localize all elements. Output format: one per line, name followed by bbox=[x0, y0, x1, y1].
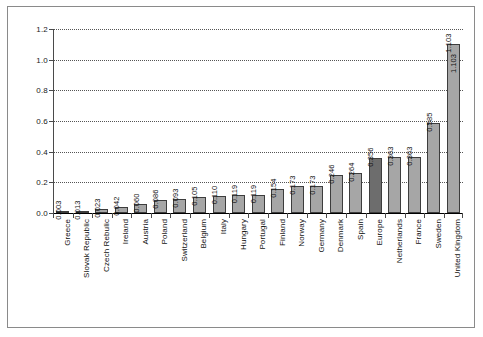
x-axis-tick bbox=[444, 213, 464, 218]
bar[interactable]: 0.246 bbox=[330, 175, 343, 213]
bar-slot: 0.105 bbox=[190, 29, 210, 213]
bar-value-label: 0.154 bbox=[269, 179, 278, 198]
bar-value-label: 0.363 bbox=[405, 147, 414, 166]
x-axis-category-label: Switzerland bbox=[180, 219, 189, 261]
x-axis-label-cell: Germany bbox=[307, 219, 327, 319]
bar[interactable]: 1.1031.103 bbox=[447, 44, 460, 213]
bar-slot: 0.173 bbox=[287, 29, 307, 213]
x-axis-label-cell: Italy bbox=[209, 219, 229, 319]
bar-value-label: 0.246 bbox=[327, 165, 336, 184]
x-axis-label-cell: Greece bbox=[53, 219, 73, 319]
x-axis-category-label: Poland bbox=[160, 219, 169, 245]
bar[interactable]: 0.356 bbox=[369, 158, 382, 213]
bar[interactable]: 0.086 bbox=[154, 200, 167, 213]
bar-value-label: 0.264 bbox=[347, 162, 356, 181]
x-axis-label-cell: Netherlands bbox=[385, 219, 405, 319]
bar-slot: 0.585 bbox=[424, 29, 444, 213]
x-axis-label-cell: Belgium bbox=[190, 219, 210, 319]
bar-value-label: 0.105 bbox=[190, 186, 199, 205]
bar-slot: 1.1031.103 bbox=[444, 29, 464, 213]
bar-series: 0.0030.0130.0230.0420.0600.0860.0930.105… bbox=[53, 29, 463, 213]
y-axis-label: 1.0 bbox=[36, 55, 48, 64]
bar[interactable]: 0.110 bbox=[213, 196, 226, 213]
bar-slot: 0.173 bbox=[307, 29, 327, 213]
x-axis-tick bbox=[92, 213, 112, 218]
x-axis-tick bbox=[346, 213, 366, 218]
x-axis-category-label: Norway bbox=[297, 219, 306, 247]
bar[interactable]: 0.173 bbox=[291, 186, 304, 213]
x-axis-label-cell: Finland bbox=[268, 219, 288, 319]
x-axis-category-label: Denmark bbox=[336, 219, 345, 252]
x-axis-tick bbox=[190, 213, 210, 218]
x-axis-tick bbox=[287, 213, 307, 218]
bar-slot: 0.119 bbox=[229, 29, 249, 213]
bar-slot: 0.110 bbox=[209, 29, 229, 213]
bar[interactable]: 0.264 bbox=[349, 173, 362, 213]
x-axis-label-cell: Sweden bbox=[424, 219, 444, 319]
y-axis-labels: 1.2 1.0 0.8 0.6 0.4 0.2 0.0 bbox=[20, 29, 48, 213]
bar-slot: 0.093 bbox=[170, 29, 190, 213]
x-axis-tick bbox=[307, 213, 327, 218]
x-axis-label-cell: Austria bbox=[131, 219, 151, 319]
bar[interactable]: 0.119 bbox=[252, 195, 265, 213]
bar[interactable]: 0.154 bbox=[271, 189, 284, 213]
bar-value-label: 0.585 bbox=[425, 113, 434, 132]
bar-slot: 0.023 bbox=[92, 29, 112, 213]
bar-slot: 0.363 bbox=[385, 29, 405, 213]
bar-value-label: 0.119 bbox=[230, 184, 239, 203]
bar[interactable]: 0.105 bbox=[193, 197, 206, 213]
bar-value-label: 0.119 bbox=[249, 184, 258, 203]
bar[interactable]: 0.363 bbox=[408, 157, 421, 213]
x-axis-category-label: Ireland bbox=[121, 219, 130, 244]
bar-value-label: 0.173 bbox=[288, 176, 297, 195]
y-axis-label: 0.8 bbox=[36, 86, 48, 95]
x-axis-tick bbox=[424, 213, 444, 218]
bar-value-label: 0.356 bbox=[366, 148, 375, 167]
x-axis-category-label: Germany bbox=[317, 219, 326, 253]
x-axis-tick bbox=[366, 213, 386, 218]
x-axis-label-cell: Switzerland bbox=[170, 219, 190, 319]
x-axis-label-cell: France bbox=[405, 219, 425, 319]
x-axis-label-cell: United Kingdom bbox=[444, 219, 464, 319]
screenshot-root: 1.2 1.0 0.8 0.6 0.4 0.2 0.0 bbox=[0, 0, 483, 337]
bar-slot: 0.060 bbox=[131, 29, 151, 213]
x-axis-tick bbox=[53, 213, 73, 218]
bar-value-label: 1.103 bbox=[444, 33, 453, 52]
x-axis-tick bbox=[112, 213, 132, 218]
x-axis-ticks bbox=[53, 213, 463, 218]
bar-slot: 0.042 bbox=[112, 29, 132, 213]
bar[interactable]: 0.060 bbox=[134, 204, 147, 213]
x-axis-category-label: Finland bbox=[278, 219, 287, 246]
x-axis-category-label: Hungary bbox=[239, 219, 248, 250]
x-axis-label-cell: Poland bbox=[151, 219, 171, 319]
bar-value-label: 0.110 bbox=[210, 186, 219, 205]
bar-slot: 0.003 bbox=[53, 29, 73, 213]
x-axis-category-label: Sweden bbox=[434, 219, 443, 249]
y-axis-label: 1.2 bbox=[36, 25, 48, 34]
x-axis-tick bbox=[229, 213, 249, 218]
x-axis-label-cell: Hungary bbox=[229, 219, 249, 319]
bar-slot: 0.013 bbox=[73, 29, 93, 213]
x-axis-tick bbox=[326, 213, 346, 218]
bar[interactable]: 0.363 bbox=[388, 157, 401, 213]
bar-value-label: 0.086 bbox=[151, 189, 160, 208]
bar-slot: 0.086 bbox=[151, 29, 171, 213]
x-axis-label-cell: Slovak Republic bbox=[73, 219, 93, 319]
bar-value-label: 0.060 bbox=[132, 193, 141, 212]
bar-value-label: 0.363 bbox=[386, 147, 395, 166]
bar-value-label: 0.093 bbox=[171, 188, 180, 207]
bar[interactable]: 0.585 bbox=[427, 123, 440, 213]
x-axis-tick bbox=[268, 213, 288, 218]
x-axis-category-label: Europe bbox=[375, 219, 384, 245]
bar[interactable]: 0.173 bbox=[310, 186, 323, 213]
bar-slot: 0.363 bbox=[405, 29, 425, 213]
x-axis-label-cell: Ireland bbox=[112, 219, 132, 319]
x-axis-label-cell: Spain bbox=[346, 219, 366, 319]
x-axis-label-cell: Norway bbox=[287, 219, 307, 319]
x-axis-labels: GreeceSlovak RepublicCzech RebulicIrelan… bbox=[53, 219, 463, 319]
x-axis-label-cell: Denmark bbox=[326, 219, 346, 319]
x-axis-category-label: Belgium bbox=[199, 219, 208, 249]
bar[interactable]: 0.119 bbox=[232, 195, 245, 213]
bar[interactable]: 0.093 bbox=[173, 199, 186, 213]
y-axis-label: 0.4 bbox=[36, 147, 48, 156]
